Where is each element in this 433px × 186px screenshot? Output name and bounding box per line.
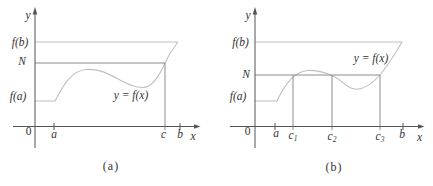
y-axis-label: y <box>245 10 250 22</box>
x-axis-arrow-icon <box>194 124 201 129</box>
tick-label-b: b <box>177 129 183 141</box>
tick-label-b: b <box>399 129 405 141</box>
origin-label: 0 <box>245 126 251 138</box>
x-axis-arrow-icon <box>418 124 425 129</box>
panel-a-caption: (a) <box>103 160 119 172</box>
fb-label: f(b) <box>12 37 29 49</box>
y-axis-arrow-icon <box>253 7 258 15</box>
tick-label-a: a <box>51 129 57 141</box>
panel-b-caption: (b) <box>326 161 343 173</box>
panel-a: y x 0 f(b) N f(a) y = f(x) a c b (a) <box>0 0 216 186</box>
tick-label-c3: c3 <box>376 131 385 143</box>
origin-label: 0 <box>26 126 32 138</box>
fa-label: f(a) <box>230 91 247 103</box>
tick-label-c1: c1 <box>289 130 298 142</box>
curve-equation-label: y = f(x) <box>354 53 389 65</box>
panel-b: y x 0 f(b) N f(a) y = f(x) a c1 c2 c3 b … <box>216 0 433 186</box>
x-axis-label: x <box>417 132 422 144</box>
curve-equation-label: y = f(x) <box>114 90 149 102</box>
y-axis-arrow-icon <box>33 7 38 15</box>
n-label: N <box>18 56 26 68</box>
n-label: N <box>242 69 250 81</box>
panel-b-plot <box>216 0 433 186</box>
ivt-figure: y x 0 f(b) N f(a) y = f(x) a c b (a) <box>0 0 433 186</box>
tick-label-a: a <box>273 128 279 140</box>
function-curve <box>35 42 178 101</box>
y-axis-label: y <box>25 10 30 22</box>
x-axis-label: x <box>190 131 195 143</box>
tick-label-c2: c2 <box>328 131 337 143</box>
tick-label-c: c <box>161 129 166 141</box>
fb-label: f(b) <box>232 37 249 49</box>
fa-label: f(a) <box>10 91 27 103</box>
